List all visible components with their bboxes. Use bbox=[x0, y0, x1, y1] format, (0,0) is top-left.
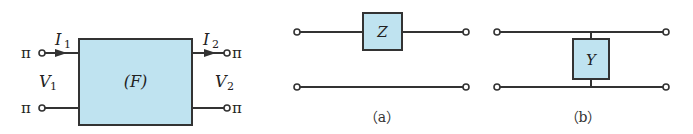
pi-label-1-top: π bbox=[21, 44, 31, 62]
svg-text:1: 1 bbox=[64, 38, 71, 51]
pi-label-1-bottom: π bbox=[21, 99, 31, 117]
circuit-figure: π π π π I 1 I 2 V 1 V 2 (F) Z （a） bbox=[0, 0, 693, 134]
svg-text:I: I bbox=[202, 30, 210, 49]
svg-text:1: 1 bbox=[50, 80, 57, 93]
current-label-i1: I 1 bbox=[54, 30, 71, 51]
pi-label-2-top: π bbox=[232, 44, 242, 62]
two-port-label: (F) bbox=[124, 72, 148, 91]
svg-text:I: I bbox=[54, 30, 62, 49]
svg-text:2: 2 bbox=[212, 38, 219, 51]
voltage-label-v2: V 2 bbox=[215, 72, 234, 93]
impedance-label: Z bbox=[376, 23, 388, 41]
voltage-label-v1: V 1 bbox=[39, 72, 57, 93]
caption-b: （b） bbox=[565, 109, 602, 125]
pi-label-2-bottom: π bbox=[232, 99, 242, 117]
terminal-2-bottom bbox=[224, 105, 230, 111]
terminal-1-bottom bbox=[39, 105, 45, 111]
caption-a: （a） bbox=[364, 109, 400, 125]
terminal-1-top bbox=[39, 50, 45, 56]
terminal-2-top bbox=[224, 50, 230, 56]
current-label-i2: I 2 bbox=[202, 30, 219, 51]
shunt-element-diagram bbox=[494, 29, 669, 90]
svg-text:2: 2 bbox=[227, 80, 234, 93]
